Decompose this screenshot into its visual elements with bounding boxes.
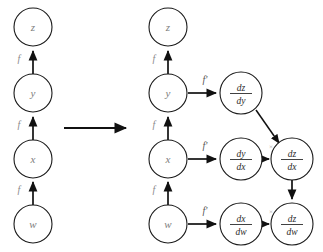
right-edge-x-dydx-group: f': [188, 140, 216, 159]
right-edge-label-times-dzdw: ×: [269, 208, 273, 216]
right-edge-wx-group: f: [153, 182, 168, 205]
node-circle: [220, 72, 262, 114]
node-label-w: w: [29, 218, 37, 230]
node-label-z: z: [165, 21, 171, 33]
node-label-z: z: [30, 21, 36, 33]
right-node-z: z: [149, 8, 187, 46]
right-node-y: y: [149, 74, 187, 112]
frac-numerator: dx: [237, 214, 247, 224]
right-edge-xy-group: f: [153, 117, 168, 140]
right-node-dydx: dy dx: [220, 138, 262, 180]
right-node-dzdw: dz dw: [271, 203, 313, 245]
frac-denominator: dx: [288, 162, 298, 172]
left-edge-label-f-yz: f: [18, 53, 22, 64]
left-edge-xy-group: f: [18, 117, 33, 140]
frac-numerator: dz: [288, 214, 297, 224]
frac-numerator: dz: [237, 83, 246, 93]
right-edge-w-dxdw-group: f': [188, 205, 216, 224]
left-edge-yz-group: f: [18, 51, 33, 74]
right-edge-yz-group: f: [153, 51, 168, 74]
right-node-w: w: [149, 205, 187, 243]
chain-rule-diagram: f f f z y x: [0, 0, 323, 252]
node-label-y: y: [165, 87, 171, 99]
right-edge-label-fprime-y: f': [203, 74, 209, 85]
node-label-x: x: [30, 153, 36, 165]
frac-denominator: dw: [286, 227, 298, 237]
graph-canvas: f f f z y x: [0, 0, 323, 252]
left-edge-x-to-y-group: f: [18, 182, 33, 205]
left-graph: f f f z y x: [14, 8, 52, 243]
left-edge-label-f-wx: f: [18, 184, 22, 195]
right-edge-y-dzdy-group: f': [188, 74, 216, 93]
right-node-dzdx: dz dx: [271, 138, 313, 180]
left-node-w: w: [14, 205, 52, 243]
left-edge-label-f-xy: f: [18, 119, 22, 130]
right-edge-label-fprime-w: f': [203, 205, 209, 216]
node-circle: [220, 138, 262, 180]
right-edge-label-f-yz: f: [153, 53, 157, 64]
node-label-y: y: [30, 87, 36, 99]
left-node-z: z: [14, 8, 52, 46]
frac-numerator: dy: [237, 149, 247, 159]
right-edge-label-times-dzdx: ×: [269, 143, 273, 151]
frac-numerator: dz: [288, 149, 297, 159]
right-edge-label-f-xy: f: [153, 119, 157, 130]
right-node-dzdy: dz dy: [220, 72, 262, 114]
frac-denominator: dw: [235, 227, 247, 237]
left-node-y: y: [14, 74, 52, 112]
right-node-x: x: [149, 140, 187, 178]
node-circle: [220, 203, 262, 245]
frac-denominator: dx: [237, 162, 247, 172]
frac-denominator: dy: [237, 96, 247, 106]
node-circle: [271, 138, 313, 180]
node-label-x: x: [165, 153, 171, 165]
node-circle: [271, 203, 313, 245]
node-label-w: w: [164, 218, 172, 230]
right-node-dxdw: dx dw: [220, 203, 262, 245]
right-edge-dzdy-to-dzdx: [256, 110, 279, 143]
right-edge-label-f-wx: f: [153, 184, 157, 195]
right-graph: f f f f' f' f': [149, 8, 313, 245]
right-edge-label-fprime-x: f': [203, 140, 209, 151]
left-node-x: x: [14, 140, 52, 178]
